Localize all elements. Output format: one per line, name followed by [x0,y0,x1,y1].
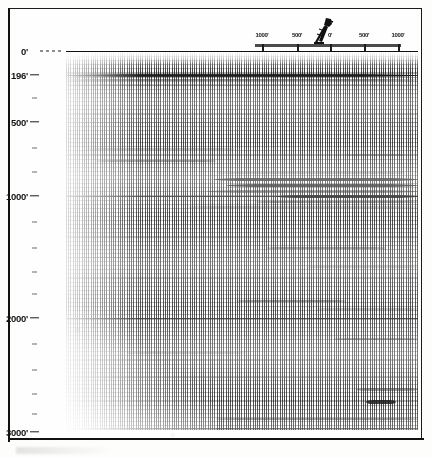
distance-scale-bar [255,44,401,47]
depth-tick-minor [32,370,37,371]
depth-tick-minor [32,172,37,173]
scale-label: 500' [359,32,369,38]
depth-tick-minor [32,414,37,415]
depth-label-196: 196' [11,70,28,81]
depth-tick-minor [32,294,37,295]
scale-label: 500' [292,32,302,38]
depth-tick-minor [32,394,37,395]
depth-tick-minor [32,98,37,99]
depth-tick-minor [32,272,37,273]
section-top-fade [66,52,418,64]
depth-axis: 0' 196' 500' 1000' 2000' 3000' [0,0,66,458]
scale-label: 1000' [392,32,405,38]
depth-tick [30,74,39,75]
seismic-section [66,52,418,430]
depth-tick-minor [32,344,37,345]
scale-label: 0' [328,32,332,38]
depth-tick [30,317,39,318]
depth-tick-minor [32,248,37,249]
seismic-profile-figure: 1000' 500' 0' 500' 1000' 0' 196' 500' 10… [0,0,432,458]
depth-tick [30,195,39,196]
depth-label-500: 500' [11,117,28,128]
page-smudge [16,447,112,454]
depth-label-0: 0' [21,46,28,57]
depth-label-2000: 2000' [6,313,28,324]
depth-label-1000: 1000' [6,191,28,202]
scale-label: 1000' [256,32,269,38]
depth-tick [30,431,39,432]
depth-tick-minor [32,148,37,149]
section-lowfold-fade [66,310,216,430]
depth-label-3000: 3000' [6,427,28,438]
depth-tick-minor [32,222,37,223]
depth-tick [30,121,39,122]
derrick-icon [310,16,336,46]
